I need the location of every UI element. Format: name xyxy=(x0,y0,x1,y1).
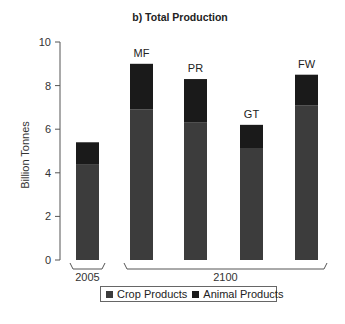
group-label: 2005 xyxy=(75,271,99,283)
bar-segment-crop-products xyxy=(295,105,318,260)
stacked-bar-chart: b) Total Production Billion Tonnes 02468… xyxy=(0,0,345,324)
animal-products-swatch xyxy=(192,291,199,298)
bar-segment-animal-products xyxy=(76,142,99,164)
legend-item-animal-products: Animal Products xyxy=(192,288,283,300)
x-axis-groups: 20052100 xyxy=(70,263,327,283)
legend: Crop Products Animal Products xyxy=(100,286,277,302)
bar-label: MF xyxy=(134,47,150,59)
y-axis: 0246810 xyxy=(39,36,60,266)
bar-segment-crop-products xyxy=(76,164,99,260)
group-bracket xyxy=(124,263,327,269)
y-tick-label: 0 xyxy=(45,254,51,266)
bar-segment-animal-products xyxy=(184,79,207,123)
bars xyxy=(76,64,318,260)
bar-segment-crop-products xyxy=(184,123,207,260)
bar-label: FW xyxy=(298,58,316,70)
y-tick-label: 6 xyxy=(45,123,51,135)
legend-label: Animal Products xyxy=(203,288,283,300)
bar-segment-animal-products xyxy=(295,75,318,106)
y-axis-label: Billion Tonnes xyxy=(19,121,31,189)
bar-segment-animal-products xyxy=(240,125,263,149)
bar-labels: MFPRGTFW xyxy=(134,47,316,120)
crop-products-swatch xyxy=(106,291,113,298)
y-tick-label: 2 xyxy=(45,210,51,222)
bar-segment-crop-products xyxy=(240,149,263,260)
group-label: 2100 xyxy=(213,271,237,283)
legend-label: Crop Products xyxy=(117,288,187,300)
bar-segment-crop-products xyxy=(130,110,153,260)
legend-item-crop-products: Crop Products xyxy=(106,288,187,300)
y-tick-label: 10 xyxy=(39,36,51,48)
bar-label: PR xyxy=(188,62,203,74)
y-tick-label: 4 xyxy=(45,167,51,179)
group-bracket xyxy=(70,263,105,269)
bar-label: GT xyxy=(244,108,260,120)
bar-segment-animal-products xyxy=(130,64,153,110)
y-tick-label: 8 xyxy=(45,80,51,92)
chart-title: b) Total Production xyxy=(132,11,227,23)
